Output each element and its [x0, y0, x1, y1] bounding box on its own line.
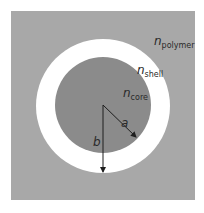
label-radius-b: b — [93, 135, 101, 149]
label-radius-a: a — [121, 116, 128, 130]
core-shell-diagram: npolymer nshell ncore a b — [0, 0, 204, 213]
